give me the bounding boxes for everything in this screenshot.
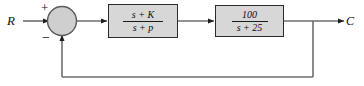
compensator-denominator: s + p (130, 22, 157, 33)
diagram-canvas (0, 0, 364, 86)
summing-junction-minus-sign: − (42, 31, 50, 45)
compensator-fraction: s + K s + p (123, 10, 163, 33)
input-signal-label: R (7, 14, 15, 27)
plant-numerator: 100 (239, 10, 260, 21)
output-signal-label: C (346, 15, 354, 27)
block-diagram: R C + − s + K s + p 100 s + 25 (0, 0, 364, 86)
summing-junction-circle (48, 7, 77, 36)
plant-denominator: s + 25 (234, 22, 266, 33)
summing-junction-plus-sign: + (41, 1, 48, 14)
transfer-function-block-compensator: s + K s + p (108, 4, 178, 38)
transfer-function-block-plant: 100 s + 25 (215, 5, 284, 37)
compensator-numerator: s + K (129, 10, 157, 21)
plant-fraction: 100 s + 25 (232, 10, 268, 33)
